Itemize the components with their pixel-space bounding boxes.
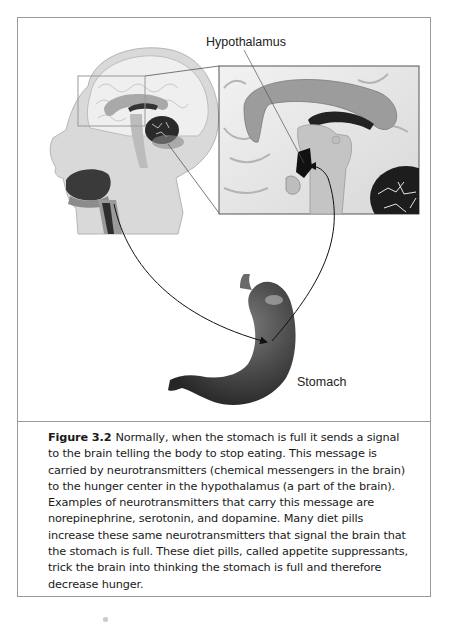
caption-line-8: the stomach is full. These diet pills, c…: [48, 544, 420, 560]
stomach-label: Stomach: [297, 375, 346, 389]
caption-line-6: norepinephrine, serotonin, and dopamine.…: [48, 511, 420, 527]
scan-artifact: [103, 617, 108, 622]
figure-frame: Hypothalamus Stomach Figure 3.2Normally,…: [17, 17, 431, 597]
caption-line-10: decrease hunger.: [48, 577, 420, 593]
caption-line-3: carried by neurotransmitters (chemical m…: [48, 463, 420, 479]
stomach-illustration: [168, 274, 296, 405]
caption-line-1: Figure 3.2Normally, when the stomach is …: [48, 430, 420, 446]
caption-line-5: Examples of neurotransmitters that carry…: [48, 495, 420, 511]
caption-line-7: increase these same neurotransmitters th…: [48, 528, 420, 544]
hypothalamus-inset: [219, 66, 430, 230]
figure-number: Figure 3.2: [48, 431, 111, 444]
caption-line-4: to the hunger center in the hypothalamus…: [48, 479, 420, 495]
figure-illustration: [18, 18, 430, 422]
figure-caption: Figure 3.2Normally, when the stomach is …: [48, 430, 420, 593]
caption-line-9: trick the brain into thinking the stomac…: [48, 560, 420, 576]
caption-divider: [18, 421, 430, 422]
head-illustration: [50, 48, 218, 234]
caption-line-2: to the brain telling the body to stop ea…: [48, 446, 420, 462]
hypothalamus-label: Hypothalamus: [206, 35, 286, 49]
